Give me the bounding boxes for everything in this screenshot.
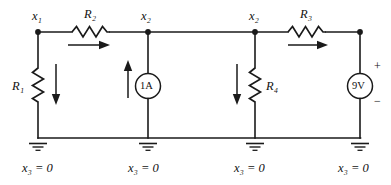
circuit-diagram: x₁ x₂ x₂ R₁ R₂ R₃ R₄ 1A 9V + − x₃ = 0 x₃… bbox=[0, 0, 391, 185]
voltage-source-minus-sign: − bbox=[374, 95, 381, 107]
label-node-x1: x₁ bbox=[32, 10, 42, 23]
node-dot-x2-left bbox=[145, 29, 151, 35]
ground-symbol-3 bbox=[246, 144, 264, 151]
label-current-source-value: 1A bbox=[140, 81, 153, 92]
label-resistor-r2: R₂ bbox=[84, 8, 96, 21]
node-dot-x2-right bbox=[252, 29, 258, 35]
circuit-schematic-canvas bbox=[0, 0, 391, 185]
label-node-x2-right: x₂ bbox=[249, 10, 259, 23]
label-resistor-r4: R₄ bbox=[266, 80, 278, 93]
label-ground-potential-2: x₃ = 0 bbox=[128, 162, 159, 175]
label-resistor-r1: R₁ bbox=[12, 80, 24, 93]
resistor-r4-zigzag bbox=[250, 68, 261, 102]
label-ground-potential-3: x₃ = 0 bbox=[234, 162, 265, 175]
label-voltage-source-value: 9V bbox=[352, 81, 365, 92]
node-dot-x1 bbox=[35, 29, 41, 35]
ground-symbol-4 bbox=[351, 144, 369, 151]
label-resistor-r3: R₃ bbox=[300, 8, 312, 21]
node-dot-top-right bbox=[357, 29, 363, 35]
resistor-r2-zigzag bbox=[72, 27, 110, 38]
ground-symbol-2 bbox=[139, 144, 157, 151]
label-ground-potential-1: x₃ = 0 bbox=[22, 162, 53, 175]
current-arrow-r3-right bbox=[288, 41, 328, 49]
ground-symbol-1 bbox=[29, 144, 47, 151]
current-arrow-r2-right bbox=[68, 41, 110, 49]
label-node-x2-left: x₂ bbox=[141, 10, 151, 23]
resistor-r1-zigzag bbox=[33, 68, 44, 102]
resistor-r3-zigzag bbox=[288, 27, 326, 38]
current-arrow-source-up bbox=[124, 60, 132, 98]
label-ground-potential-4: x₃ = 0 bbox=[338, 162, 369, 175]
current-arrow-r4-down bbox=[233, 64, 241, 105]
current-arrow-r1-down bbox=[52, 64, 60, 105]
voltage-source-plus-sign: + bbox=[374, 60, 381, 72]
